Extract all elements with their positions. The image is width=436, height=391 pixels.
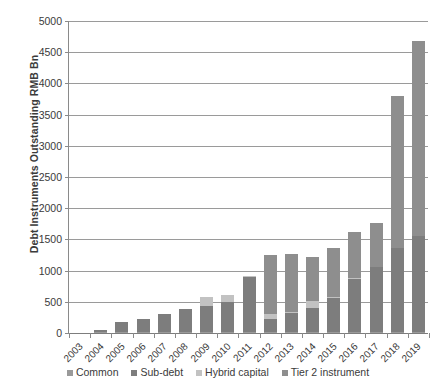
bar-2008[interactable] (179, 309, 192, 333)
bar-segment-sub-debt (412, 236, 425, 332)
y-tick-mark (65, 177, 69, 178)
y-tick-mark (65, 146, 69, 147)
x-tick-mark (111, 333, 112, 338)
bar-2005[interactable] (115, 322, 128, 333)
x-tick-mark (196, 333, 197, 338)
y-tick-label: 2500 (0, 171, 62, 183)
bar-segment-tier-2-instrument (391, 96, 404, 247)
bar-segment-common (391, 332, 404, 333)
x-tick-mark (90, 333, 91, 338)
bar-segment-common (306, 332, 319, 333)
bar-segment-tier-2-instrument (327, 248, 340, 297)
gridline (69, 177, 428, 178)
gridline (69, 146, 428, 147)
bar-segment-tier-2-instrument (285, 254, 298, 312)
bar-segment-common (264, 332, 277, 333)
bar-segment-common (370, 332, 383, 333)
legend-label: Hybrid capital (205, 366, 269, 378)
bar-segment-sub-debt (179, 309, 192, 332)
x-tick-mark (429, 333, 430, 338)
legend-swatch-icon (282, 370, 288, 376)
gridline (69, 115, 428, 116)
y-tick-label: 4000 (0, 77, 62, 89)
gridline (69, 21, 428, 22)
y-tick-label: 3500 (0, 109, 62, 121)
y-tick-mark (65, 302, 69, 303)
bar-2004[interactable] (94, 330, 107, 333)
x-tick-mark (408, 333, 409, 338)
bar-segment-common (137, 332, 150, 333)
legend-item-sub-debt[interactable]: Sub-debt (131, 366, 183, 378)
bar-segment-sub-debt (348, 279, 361, 332)
bar-2006[interactable] (137, 319, 150, 333)
plot-area (68, 21, 428, 333)
bar-2012[interactable] (264, 255, 277, 333)
bar-segment-common (221, 332, 234, 333)
x-tick-mark (217, 333, 218, 338)
y-tick-mark (65, 239, 69, 240)
x-tick-mark (302, 333, 303, 338)
legend-item-hybrid-capital[interactable]: Hybrid capital (196, 366, 269, 378)
bar-segment-common (200, 332, 213, 333)
y-tick-label: 1500 (0, 233, 62, 245)
gridline (69, 333, 428, 334)
stacked-bar-chart: Debt Instruments Outstanding RMB Bn 0500… (0, 0, 436, 391)
bar-segment-sub-debt (137, 319, 150, 332)
bar-2018[interactable] (391, 96, 404, 333)
x-tick-mark (69, 333, 70, 338)
bar-segment-sub-debt (200, 306, 213, 333)
bar-2015[interactable] (327, 248, 340, 333)
bar-segment-hybrid-capital (306, 301, 319, 308)
legend-item-tier-2-instrument[interactable]: Tier 2 instrument (282, 366, 369, 378)
x-tick-mark (260, 333, 261, 338)
bar-segment-common (243, 332, 256, 333)
bar-segment-sub-debt (391, 248, 404, 333)
bar-2014[interactable] (306, 257, 319, 333)
y-tick-mark (65, 52, 69, 53)
bar-2009[interactable] (200, 297, 213, 333)
y-tick-mark (65, 21, 69, 22)
bar-segment-sub-debt (370, 267, 383, 332)
bar-2017[interactable] (370, 223, 383, 333)
y-tick-mark (65, 115, 69, 116)
y-tick-label: 2000 (0, 202, 62, 214)
bar-segment-common (158, 332, 171, 333)
bar-2011[interactable] (243, 276, 256, 333)
x-tick-mark (238, 333, 239, 338)
x-tick-mark (365, 333, 366, 338)
legend-swatch-icon (196, 370, 202, 376)
x-tick-mark (133, 333, 134, 338)
legend-item-common[interactable]: Common (67, 366, 119, 378)
bar-2013[interactable] (285, 254, 298, 333)
bar-segment-tier-2-instrument (412, 41, 425, 236)
bar-segment-common (348, 332, 361, 333)
legend-label: Common (76, 366, 119, 378)
y-tick-label: 5000 (0, 15, 62, 27)
x-tick-mark (387, 333, 388, 338)
x-tick-mark (175, 333, 176, 338)
bar-2007[interactable] (158, 314, 171, 333)
bar-segment-sub-debt (243, 277, 256, 333)
x-tick-mark (344, 333, 345, 338)
bar-segment-common (327, 332, 340, 333)
bar-segment-tier-2-instrument (370, 223, 383, 267)
y-tick-label: 1000 (0, 265, 62, 277)
bar-segment-tier-2-instrument (348, 232, 361, 279)
legend-swatch-icon (67, 370, 73, 376)
bar-segment-hybrid-capital (221, 295, 234, 302)
legend-swatch-icon (131, 370, 137, 376)
bar-segment-common (94, 332, 107, 333)
x-tick-mark (281, 333, 282, 338)
bar-segment-common (285, 332, 298, 333)
y-tick-mark (65, 208, 69, 209)
bar-segment-sub-debt (115, 322, 128, 332)
bar-2010[interactable] (221, 295, 234, 333)
bar-2016[interactable] (348, 232, 361, 333)
bar-2019[interactable] (412, 41, 425, 334)
gridline (69, 83, 428, 84)
bar-segment-sub-debt (306, 308, 319, 333)
bar-segment-common (412, 332, 425, 333)
bar-segment-common (179, 332, 192, 333)
bar-segment-hybrid-capital (200, 297, 213, 306)
y-tick-label: 500 (0, 296, 62, 308)
